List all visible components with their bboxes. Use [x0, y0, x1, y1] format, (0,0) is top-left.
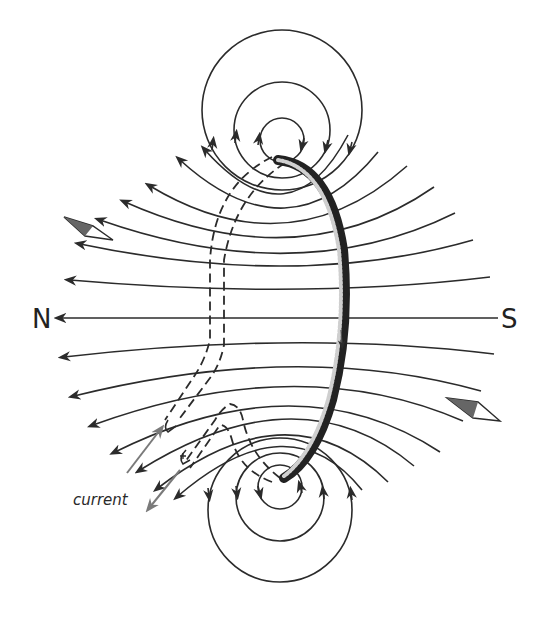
lower-field-circles	[208, 438, 352, 582]
field-diagram	[0, 0, 538, 619]
north-pole-label: N	[32, 306, 51, 332]
wire-loop-back	[165, 157, 285, 482]
current-label: current	[73, 493, 128, 508]
compass-needle-left	[64, 217, 113, 240]
south-pole-label: S	[501, 306, 518, 332]
current-arrows	[127, 430, 180, 507]
